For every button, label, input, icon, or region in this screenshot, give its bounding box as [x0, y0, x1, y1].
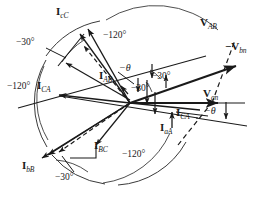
- arc-neg30-upper-left: [62, 40, 84, 62]
- label-i-CA-right-subscript: CA: [180, 112, 189, 121]
- phasor-i-BC: [96, 103, 130, 145]
- label-v-an-symbol: V: [203, 87, 211, 99]
- arc-neg30-bottom-left: [56, 160, 88, 172]
- label-v-an-subscript: an: [211, 93, 218, 102]
- label-neg30-center-a: −30°: [152, 72, 171, 82]
- label-v-bn-negative: −Vbn: [225, 41, 246, 55]
- phasor-diagram-figure: IcC −30° −120° ICA −120° IAB −θ −30° −30…: [0, 0, 259, 197]
- label-neg120-left: −120°: [7, 82, 30, 92]
- label-i-CA-subscript: CA: [41, 85, 50, 94]
- label-i-bB: IbB: [22, 160, 34, 174]
- label-v-bn-symbol: −V: [225, 40, 239, 52]
- label-v-AB-subscript: AB: [208, 22, 217, 31]
- label-i-cC-subscript: cC: [60, 11, 68, 20]
- label-neg30-bottom-left: −30°: [55, 173, 74, 183]
- label-i-aA: IaA: [160, 122, 172, 136]
- phasor-diagram-canvas: [0, 0, 259, 197]
- label-neg30-upper-left: −30°: [16, 38, 35, 48]
- rule-theta-an: [196, 118, 247, 126]
- label-i-aA-subscript: aA: [164, 127, 172, 136]
- label-v-an: Van: [203, 88, 218, 102]
- label-v-bn-subscript: bn: [239, 46, 246, 55]
- label-neg120-upper-right: −120°: [103, 31, 126, 41]
- label-i-BC-subscript: BC: [98, 145, 107, 154]
- label-i-AB-subscript: AB: [103, 75, 112, 84]
- label-i-bB-subscript: bB: [26, 165, 34, 174]
- label-v-AB-symbol: V: [200, 16, 208, 28]
- label-neg30-center-b: −30°: [131, 84, 150, 94]
- label-neg120-bottom: −120°: [122, 150, 145, 160]
- label-theta-ab: −θ: [119, 63, 131, 73]
- label-i-cC: IcC: [56, 6, 68, 20]
- label-i-CA: ICA: [37, 80, 50, 94]
- label-v-AB: VAB: [200, 17, 217, 31]
- label-i-BC: IBC: [94, 140, 107, 154]
- bracket-i-BC: [70, 146, 96, 158]
- label-i-AB: IAB: [99, 70, 112, 84]
- label-i-CA-right: ICA: [176, 107, 189, 121]
- label-theta-an: −θ: [204, 106, 216, 116]
- phasor-i-bB-alt: [42, 103, 130, 158]
- leader-neg30-upper-left: [46, 48, 66, 58]
